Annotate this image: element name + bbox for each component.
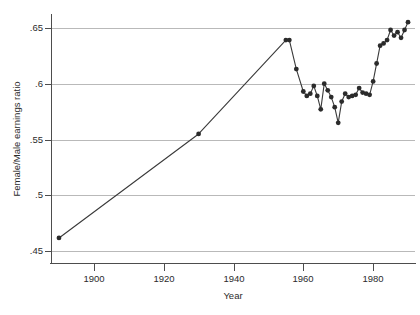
data-point <box>385 38 390 43</box>
data-point <box>353 92 358 97</box>
data-point <box>339 99 344 104</box>
series-line <box>59 22 408 238</box>
series-markers <box>57 20 411 241</box>
data-point <box>371 79 376 84</box>
data-series-layer <box>0 0 420 315</box>
data-point <box>311 83 316 88</box>
data-point <box>301 89 306 94</box>
data-point <box>374 61 379 66</box>
data-point <box>392 33 397 38</box>
data-point <box>388 28 393 33</box>
data-point <box>287 38 292 43</box>
data-point <box>399 35 404 40</box>
data-point <box>381 41 386 46</box>
data-point <box>322 81 327 86</box>
data-point <box>406 20 411 25</box>
data-point <box>294 67 299 72</box>
data-point <box>325 88 330 93</box>
data-point <box>336 120 341 125</box>
data-point <box>318 107 323 112</box>
data-point <box>329 95 334 100</box>
data-point <box>57 236 62 241</box>
chart-figure: .45.5.55.6.65 19001920194019601980 Femal… <box>0 0 420 315</box>
data-point <box>315 94 320 99</box>
data-point <box>395 30 400 35</box>
data-point <box>402 28 407 33</box>
data-point <box>332 105 337 110</box>
data-point <box>357 86 362 91</box>
data-point <box>367 92 372 97</box>
data-point <box>196 132 201 137</box>
data-point <box>343 91 348 96</box>
x-axis-title: Year <box>50 291 416 301</box>
y-axis-title: Female/Male earnings ratio <box>12 16 22 262</box>
data-point <box>308 91 313 96</box>
